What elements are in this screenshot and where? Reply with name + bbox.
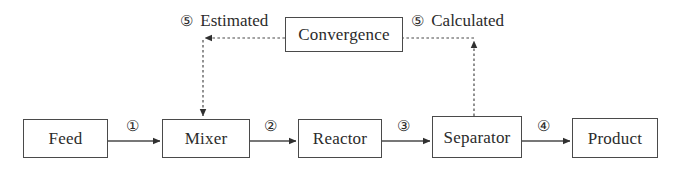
unit-box-feed[interactable]: Feed bbox=[23, 119, 108, 158]
loop-label-estimated: ⑤ Estimated bbox=[180, 12, 268, 29]
unit-box-separator[interactable]: Separator bbox=[432, 116, 522, 158]
process-flowsheet-diagram: Feed Mixer Reactor Separator Product Con… bbox=[0, 0, 676, 175]
loop-text-calculated: Calculated bbox=[431, 11, 504, 30]
loop-tag-calculated: ⑤ bbox=[411, 13, 424, 29]
unit-label-separator: Separator bbox=[444, 129, 511, 146]
unit-box-product[interactable]: Product bbox=[572, 118, 658, 158]
unit-label-product: Product bbox=[588, 130, 642, 147]
unit-box-mixer[interactable]: Mixer bbox=[162, 119, 250, 158]
unit-label-feed: Feed bbox=[49, 130, 83, 147]
unit-label-convergence: Convergence bbox=[298, 26, 390, 43]
stream-tag-3: ③ bbox=[397, 119, 410, 134]
stream-tag-2: ② bbox=[264, 119, 277, 134]
loop-text-estimated: Estimated bbox=[200, 11, 268, 30]
stream-tag-4: ④ bbox=[537, 119, 550, 134]
loop-label-calculated: ⑤ Calculated bbox=[411, 12, 504, 29]
loop-tag-estimated: ⑤ bbox=[180, 13, 193, 29]
unit-label-mixer: Mixer bbox=[185, 130, 228, 147]
unit-box-reactor[interactable]: Reactor bbox=[298, 119, 382, 158]
unit-box-convergence[interactable]: Convergence bbox=[285, 17, 403, 52]
unit-label-reactor: Reactor bbox=[313, 130, 367, 147]
stream-tag-1: ① bbox=[126, 119, 139, 134]
